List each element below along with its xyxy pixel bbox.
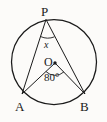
geometry-figure-canvas: P A B O x 80° <box>0 0 107 122</box>
inscribed-angle-label: x <box>44 40 48 50</box>
vertex-label-p: P <box>41 5 48 18</box>
center-point-dot <box>53 61 56 64</box>
center-label-o: O <box>44 56 53 68</box>
central-angle-label: 80° <box>44 72 59 83</box>
vertex-label-a: A <box>15 100 24 113</box>
segment-ob <box>55 63 85 94</box>
angle-arc-p <box>41 37 55 39</box>
vertex-label-b: B <box>80 100 89 113</box>
